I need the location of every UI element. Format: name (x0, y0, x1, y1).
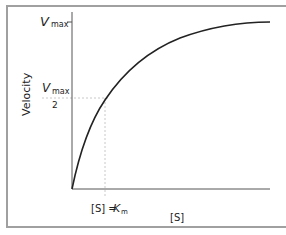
vmax-half-label: V (42, 81, 51, 95)
x-axis-label: [S] (170, 212, 184, 223)
vmax-half-sub-label: max (52, 87, 70, 96)
chart-canvas: V max V max 2 Velocity [S] = K m [S] (0, 0, 286, 235)
km-label: K (113, 202, 121, 215)
vmax-label: V (40, 14, 50, 29)
michaelis-menten-curve (72, 22, 270, 189)
y-axis-label: Velocity (20, 72, 33, 116)
vmax-sub-label: max (51, 20, 69, 29)
vmax-half-den-label: 2 (52, 100, 58, 110)
km-sub-label: m (121, 208, 128, 216)
